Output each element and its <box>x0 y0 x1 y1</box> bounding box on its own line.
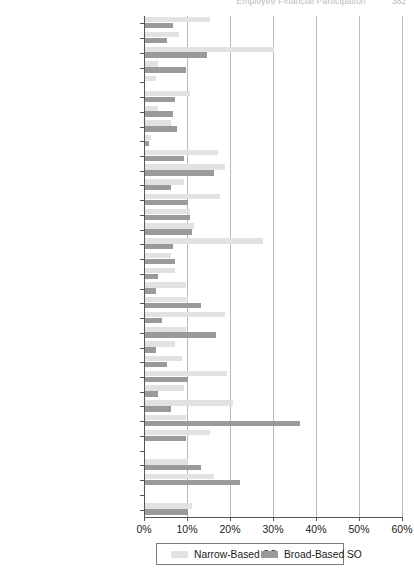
y-axis-tick <box>140 318 144 319</box>
x-axis-tick-label: 20% <box>219 523 240 535</box>
x-axis-tick <box>359 517 360 521</box>
y-axis-tick <box>140 392 144 393</box>
chart-row: USA <box>144 473 402 487</box>
bar-narrow-based-so <box>145 179 184 184</box>
y-axis-tick <box>140 127 144 128</box>
y-axis-tick <box>140 348 144 349</box>
plot-area: AustraliaAustriaBelgiumBulgariaCyprusDen… <box>144 16 402 517</box>
bar-narrow-based-so <box>145 164 225 169</box>
chart-row: The Netherlands <box>144 429 402 443</box>
y-axis-tick <box>140 156 144 157</box>
chart-row: Serbia <box>144 325 402 339</box>
bar-broad-based-so <box>145 170 214 175</box>
bar-broad-based-so <box>145 318 162 323</box>
y-axis-tick <box>140 421 144 422</box>
x-axis-tick-label: 60% <box>391 523 412 535</box>
chart-row: Philippines <box>144 296 402 310</box>
y-axis-tick <box>140 23 144 24</box>
x-axis-tick-label: 40% <box>305 523 326 535</box>
y-axis-tick <box>140 480 144 481</box>
chart-row: Austria <box>144 31 402 45</box>
bar-narrow-based-so <box>145 268 175 273</box>
x-axis-tick-label: 50% <box>348 523 369 535</box>
chart-row: Lithuania <box>144 267 402 281</box>
chart-row: South Africa <box>144 370 402 384</box>
chart-row: Italy <box>144 237 402 251</box>
bar-narrow-based-so <box>145 312 225 317</box>
bar-narrow-based-so <box>145 32 179 37</box>
bar-narrow-based-so <box>145 106 158 111</box>
bar-narrow-based-so <box>145 385 184 390</box>
y-axis-tick <box>140 215 144 216</box>
bar-broad-based-so <box>145 377 188 382</box>
y-axis-tick <box>140 274 144 275</box>
x-axis-tick <box>273 517 274 521</box>
chart-row: Slovakia <box>144 340 402 354</box>
chart-row: Bulgaria <box>144 60 402 74</box>
bar-narrow-based-so <box>145 194 220 199</box>
chart-row: Norway <box>144 281 402 295</box>
y-axis-tick <box>140 436 144 437</box>
bar-broad-based-so <box>145 38 167 43</box>
y-axis-tick <box>140 53 144 54</box>
bar-narrow-based-so <box>145 430 210 435</box>
y-axis-tick <box>140 112 144 113</box>
chart-row: Finland <box>144 119 402 133</box>
bar-narrow-based-so <box>145 253 171 258</box>
y-axis-tick <box>140 465 144 466</box>
bar-narrow-based-so <box>145 120 171 125</box>
chart-row: Turkish Cypriot Community <box>144 443 402 457</box>
bar-broad-based-so <box>145 126 177 131</box>
x-axis-tick-label: 30% <box>262 523 283 535</box>
y-axis-tick <box>140 333 144 334</box>
x-axis-tick-label: 0% <box>136 523 151 535</box>
chart-row: Iceland <box>144 193 402 207</box>
bar-broad-based-so <box>145 259 175 264</box>
y-axis-tick <box>140 377 144 378</box>
y-axis-tick <box>140 171 144 172</box>
y-axis-tick <box>140 38 144 39</box>
chart-row: Hungary <box>144 178 402 192</box>
bar-broad-based-so <box>145 362 167 367</box>
y-axis-tick <box>140 406 144 407</box>
y-axis-tick <box>140 303 144 304</box>
chart-row: France <box>144 134 402 148</box>
bar-broad-based-so <box>145 185 171 190</box>
chart-row: Switzerland <box>144 399 402 413</box>
chart-row: Slovenia <box>144 355 402 369</box>
bar-broad-based-so <box>145 391 158 396</box>
bar-broad-based-so <box>145 288 156 293</box>
y-axis-tick <box>140 451 144 452</box>
y-axis-tick <box>140 97 144 98</box>
chart-row: Estonia <box>144 104 402 118</box>
bar-narrow-based-so <box>145 503 192 508</box>
gridline <box>402 16 403 517</box>
x-axis-tick <box>402 517 403 521</box>
bar-broad-based-so <box>145 332 216 337</box>
legend-item-broad-based-so: Broad-Based SO <box>261 549 362 560</box>
bar-narrow-based-so <box>145 297 188 302</box>
x-axis-tick <box>144 517 145 521</box>
running-header-title: Employee Financial Participation <box>236 0 366 6</box>
y-axis-tick <box>140 230 144 231</box>
running-header-page-number: 382 <box>392 0 406 6</box>
chart-row: Israel <box>144 222 402 236</box>
bar-broad-based-so <box>145 465 201 470</box>
chart-row: Total <box>144 502 402 516</box>
bar-narrow-based-so <box>145 356 182 361</box>
bar-broad-based-so <box>145 303 201 308</box>
bar-narrow-based-so <box>145 238 263 243</box>
bar-broad-based-so <box>145 156 184 161</box>
chart-page: Employee Financial Participation 382 Aus… <box>0 0 414 585</box>
chart-row: Denmark <box>144 90 402 104</box>
bar-narrow-based-so <box>145 400 233 405</box>
bar-narrow-based-so <box>145 415 186 420</box>
bar-broad-based-so <box>145 141 149 146</box>
bar-narrow-based-so <box>145 341 175 346</box>
bar-broad-based-so <box>145 215 190 220</box>
y-axis-tick <box>140 68 144 69</box>
y-axis-tick <box>140 289 144 290</box>
bar-narrow-based-so <box>145 327 186 332</box>
bar-broad-based-so <box>145 347 156 352</box>
bar-broad-based-so <box>145 97 175 102</box>
